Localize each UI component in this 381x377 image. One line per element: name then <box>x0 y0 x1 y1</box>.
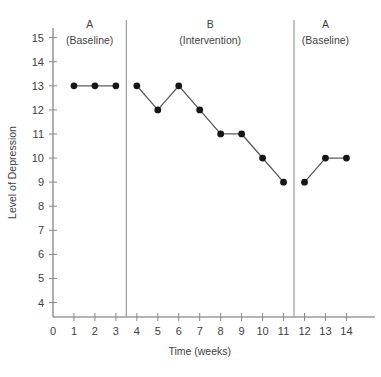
x-tick-label: 8 <box>218 325 224 337</box>
x-tick-label: 2 <box>92 325 98 337</box>
x-tick-label: 1 <box>71 325 77 337</box>
phase-sublabel-phase-a1: (Baseline) <box>66 34 113 46</box>
y-tick-label: 12 <box>32 104 44 116</box>
x-tick-label: 10 <box>256 325 268 337</box>
y-tick-label: 13 <box>32 80 44 92</box>
y-tick-label: 14 <box>32 56 44 68</box>
phase-sublabel-phase-a2: (Baseline) <box>302 34 349 46</box>
data-point <box>196 106 203 113</box>
data-point <box>71 82 78 89</box>
y-tick-label: 9 <box>38 176 44 188</box>
data-point <box>112 82 119 89</box>
data-point <box>322 155 329 162</box>
chart-container: 45678910111213141501234567891011121314Ti… <box>0 0 381 377</box>
x-tick-label: 4 <box>134 325 140 337</box>
phase-sublabel-phase-b: (Intervention) <box>179 34 241 46</box>
x-tick-label: 3 <box>113 325 119 337</box>
y-tick-label: 15 <box>32 32 44 44</box>
x-tick-label: 7 <box>197 325 203 337</box>
y-axis-title: Level of Depression <box>6 126 18 219</box>
y-tick-label: 5 <box>38 272 44 284</box>
x-tick-label: 0 <box>50 325 56 337</box>
data-point <box>259 155 266 162</box>
y-tick-label: 8 <box>38 200 44 212</box>
x-tick-label: 9 <box>239 325 245 337</box>
x-tick-label: 6 <box>176 325 182 337</box>
data-point <box>175 82 182 89</box>
y-tick-label: 10 <box>32 152 44 164</box>
x-tick-label: 5 <box>155 325 161 337</box>
x-tick-label: 14 <box>340 325 352 337</box>
x-tick-label: 11 <box>278 325 289 337</box>
y-tick-label: 4 <box>38 297 44 309</box>
series-line-phase-a2 <box>305 158 347 182</box>
x-tick-label: 13 <box>319 325 331 337</box>
y-tick-label: 11 <box>33 128 44 140</box>
y-tick-label: 7 <box>38 224 44 236</box>
data-point <box>92 82 99 89</box>
phase-label-phase-a1: A <box>86 18 93 30</box>
data-point <box>343 155 350 162</box>
single-case-design-line-chart: 45678910111213141501234567891011121314Ti… <box>0 0 381 377</box>
data-point <box>217 131 224 138</box>
x-axis-title: Time (weeks) <box>168 345 231 357</box>
series-line-phase-b <box>137 86 284 182</box>
y-tick-label: 6 <box>38 248 44 260</box>
data-point <box>238 131 245 138</box>
data-point <box>301 179 308 186</box>
phase-label-phase-a2: A <box>322 18 329 30</box>
data-point <box>280 179 287 186</box>
data-point <box>133 82 140 89</box>
plot-area: 45678910111213141501234567891011121314Ti… <box>6 18 375 357</box>
phase-label-phase-b: B <box>207 18 214 30</box>
x-tick-label: 12 <box>298 325 310 337</box>
data-point <box>154 106 161 113</box>
